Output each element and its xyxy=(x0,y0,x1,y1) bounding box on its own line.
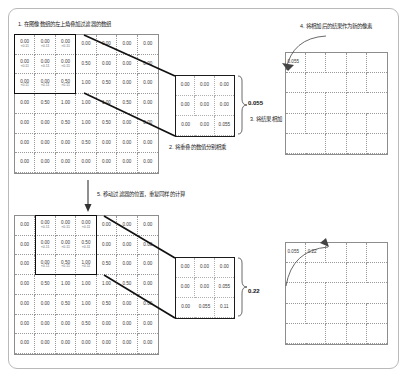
input-stage1-cell: 0.00 xyxy=(76,153,96,173)
product-stage1-cell-value: 0.055 xyxy=(219,123,231,128)
input-stage1-cell-value: 0.00 xyxy=(41,121,50,126)
input-stage2-cell-multiplier: ×0.11 xyxy=(82,226,91,230)
output-stage2-cell xyxy=(326,324,346,344)
input-stage1-cell-value: 0.00 xyxy=(143,62,152,67)
input-stage1-cell: 0.00 xyxy=(35,153,55,173)
input-stage2-cell: 0.50×0.11 xyxy=(56,255,76,275)
input-stage1-cell-value: 0.50 xyxy=(41,101,50,106)
input-stage2-cell-value: 0.00 xyxy=(122,223,131,228)
input-stage2-cell: 0.00 xyxy=(138,216,158,236)
input-stage2-cell-value: 0.00 xyxy=(122,341,131,346)
input-stage1-cell: 0.50 xyxy=(76,55,96,75)
input-stage1-cell: 0.00 xyxy=(138,74,158,94)
output-feature-map-stage1: 0.055 xyxy=(285,52,388,155)
input-array-stage2: 0.000.00×0.110.00×0.110.00×0.110.000.000… xyxy=(14,215,159,355)
input-stage1-cell-value: 0.50 xyxy=(61,121,70,126)
input-stage2-cell: 0.00 xyxy=(117,295,137,315)
input-stage2-cell-value: 0.00 xyxy=(122,262,131,267)
product-stage2-cell: 0.00 xyxy=(195,258,214,278)
input-stage2-cell: 0.50 xyxy=(35,275,55,295)
input-stage2-cell: 0.50 xyxy=(117,275,137,295)
product-matrix-stage1: 0.000.000.000.000.000.000.000.000.055 xyxy=(175,75,235,137)
input-stage2-cell-value: 0.00 xyxy=(20,243,29,248)
product-stage1-cell-value: 0.00 xyxy=(200,123,209,128)
input-stage1-cell: 0.50 xyxy=(35,94,55,114)
input-stage2-cell: 1.00 xyxy=(56,275,76,295)
output-stage2-cell xyxy=(306,324,326,344)
input-stage1-cell-value: 0.00 xyxy=(20,160,29,165)
output-stage2-cell xyxy=(367,304,387,324)
caption-step-2: 2. 将重叠的数值分别相乘 xyxy=(169,145,226,150)
input-stage2-cell: 0.00 xyxy=(117,216,137,236)
input-stage2-cell-value: 0.00 xyxy=(102,243,111,248)
input-stage1-cell-value: 1.00 xyxy=(82,81,91,86)
input-stage1-cell-multiplier: ×0.11 xyxy=(20,45,29,49)
product-stage2-cell-value: 0.00 xyxy=(181,305,190,310)
input-stage1-cell-value: 1.00 xyxy=(82,121,91,126)
output-stage1-cell xyxy=(326,114,346,134)
input-stage1-cell-value: 0.00 xyxy=(122,62,131,67)
input-stage1-cell-value: 1.00 xyxy=(82,101,91,106)
input-stage2-cell-value: 0.00 xyxy=(122,322,131,327)
input-stage2-cell-value: 0.00 xyxy=(61,322,70,327)
input-stage1-cell: 0.00 xyxy=(117,35,137,55)
input-stage1-cell: 1.00 xyxy=(97,94,117,114)
output-stage1-cell xyxy=(347,134,367,154)
output-stage2-cell xyxy=(367,324,387,344)
product-stage1-cell: 0.00 xyxy=(215,76,234,96)
input-stage2-cell: 0.00 xyxy=(97,216,117,236)
input-stage1-cell: 0.00×0.11 xyxy=(35,55,55,75)
input-stage1-cell: 1.00 xyxy=(56,94,76,114)
input-stage1-cell: 0.00 xyxy=(117,55,137,75)
input-stage1-cell: 0.00 xyxy=(117,114,137,134)
input-stage2-cell-value: 0.00 xyxy=(143,322,152,327)
input-stage2-cell: 1.00×0.11 xyxy=(76,255,96,275)
input-stage2-cell-value: 0.00 xyxy=(41,322,50,327)
output-stage2-cell xyxy=(347,324,367,344)
input-stage2-cell: 0.50 xyxy=(56,295,76,315)
input-stage2-cell: 0.50 xyxy=(97,255,117,275)
product-stage1-cell: 0.00 xyxy=(176,96,195,116)
output-stage2-cell: 0.22 xyxy=(306,243,326,263)
input-stage1-cell: 0.00 xyxy=(35,114,55,134)
input-stage1-cell-value: 0.00 xyxy=(82,160,91,165)
input-stage2-cell: 0.00 xyxy=(138,334,158,354)
sum-value-stage1: 0.055 xyxy=(248,100,263,106)
input-stage2-cell-value: 0.50 xyxy=(61,302,70,307)
input-stage2-cell-value: 0.00 xyxy=(82,341,91,346)
convolution-diagram: 1. 在图像数组的左上角叠加过滤器的数组 0.00×0.110.00×0.110… xyxy=(0,0,407,383)
product-stage2-cell: 0.00 xyxy=(215,258,234,278)
input-stage1-cell: 0.00 xyxy=(15,114,35,134)
input-stage1-cell: 0.50 xyxy=(97,114,117,134)
input-stage2-cell: 0.00 xyxy=(76,334,96,354)
input-stage2-cell-value: 0.50 xyxy=(41,282,50,287)
input-stage2-cell-value: 0.00 xyxy=(20,302,29,307)
input-stage1-cell: 0.00 xyxy=(138,94,158,114)
input-stage1-cell: 0.00×0.11 xyxy=(15,74,35,94)
input-stage2-cell-value: 1.00 xyxy=(82,282,91,287)
product-stage1-cell-value: 0.00 xyxy=(181,83,190,88)
output-stage2-cell xyxy=(306,263,326,283)
input-stage2-cell-value: 0.00 xyxy=(102,341,111,346)
input-stage2-cell: 0.00 xyxy=(15,315,35,335)
input-stage2-cell: 0.00 xyxy=(117,236,137,256)
product-stage2-cell: 0.055 xyxy=(195,298,214,318)
input-stage1-cell: 0.00 xyxy=(15,94,35,114)
output-stage2-cell xyxy=(367,263,387,283)
input-stage1-cell-value: 0.00 xyxy=(143,121,152,126)
product-stage1-cell: 0.055 xyxy=(215,116,234,136)
output-stage1-cell xyxy=(367,114,387,134)
input-stage1-cell: 0.50 xyxy=(76,134,96,154)
input-stage2-cell-value: 0.00 xyxy=(41,341,50,346)
input-stage1-cell: 0.00×0.11 xyxy=(15,35,35,55)
input-stage2-cell-multiplier: ×0.11 xyxy=(61,226,70,230)
product-stage2-cell-value: 0.00 xyxy=(200,285,209,290)
product-stage1-cell-value: 0.00 xyxy=(220,103,229,108)
input-stage2-cell: 0.00 xyxy=(138,315,158,335)
input-stage1-cell: 0.00 xyxy=(117,153,137,173)
product-stage2-cell-value: 0.055 xyxy=(199,305,211,310)
output-stage2-cell xyxy=(306,304,326,324)
input-stage2-cell: 0.00 xyxy=(117,334,137,354)
input-stage1-cell: 0.00×0.11 xyxy=(56,55,76,75)
input-stage2-cell: 0.00 xyxy=(35,315,55,335)
